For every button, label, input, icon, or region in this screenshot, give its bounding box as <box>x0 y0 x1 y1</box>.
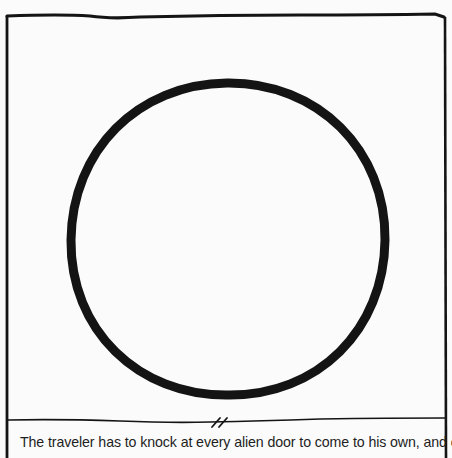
panel-frame-right <box>445 17 446 458</box>
circle-drawing <box>71 83 385 395</box>
panel-frame-top <box>7 14 444 18</box>
comic-panel <box>0 0 452 458</box>
caption-text: The traveler has to knock at every alien… <box>20 434 450 450</box>
